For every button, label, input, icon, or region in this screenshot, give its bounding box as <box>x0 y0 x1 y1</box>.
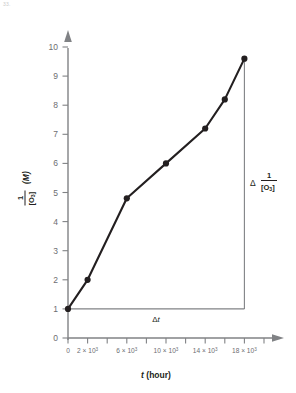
x-tick-label: 6 × 103 <box>116 347 138 354</box>
y-tick-label: 4 <box>53 217 58 227</box>
y-tick-label: 6 <box>53 158 58 168</box>
y-axis-title-denominator: [O3] <box>27 191 37 205</box>
y-axis-ticks <box>63 47 69 338</box>
delta-fraction-denominator: [O3] <box>261 183 275 193</box>
y-axis-arrowhead <box>64 30 72 42</box>
delta-one-over-o3-label: Δ 1 [O3] <box>250 171 277 192</box>
data-point-marker <box>241 56 247 62</box>
y-tick-label: 9 <box>53 71 58 81</box>
data-point-marker <box>124 195 130 201</box>
x-tick-label: 14 × 103 <box>193 347 218 354</box>
data-point-marker <box>222 96 228 102</box>
y-tick-label: 10 <box>49 42 59 52</box>
y-tick-label: 2 <box>53 275 58 285</box>
chart-svg: 0 1 2 3 4 5 6 7 8 9 10 1 [O3] <box>0 0 296 393</box>
x-tick-label: 18 × 103 <box>232 347 257 354</box>
y-axis-tick-labels: 0 1 2 3 4 5 6 7 8 9 10 <box>49 42 59 343</box>
y-tick-label: 1 <box>53 304 58 314</box>
data-point-marker <box>163 160 169 166</box>
delta-t-label: Δt <box>152 315 160 324</box>
data-point-marker <box>85 277 91 283</box>
data-point-marker <box>202 125 208 131</box>
y-tick-label: 5 <box>53 188 58 198</box>
x-tick-label: 2 × 103 <box>77 347 99 354</box>
x-axis-arrowhead <box>272 334 284 342</box>
data-point-marker <box>65 306 71 312</box>
x-axis-title: t (hour) <box>141 370 171 380</box>
y-axis-title-units: (M) <box>21 171 31 184</box>
y-tick-label: 3 <box>53 246 58 256</box>
series-line <box>68 59 244 309</box>
delta-symbol: Δ <box>250 178 256 188</box>
data-series <box>65 56 248 312</box>
y-axis: 0 1 2 3 4 5 6 7 8 9 10 1 [O3] <box>16 30 72 343</box>
y-tick-label: 0 <box>53 333 58 343</box>
x-axis-tick-labels: 0 2 × 103 6 × 103 10 × 103 14 × 103 18 ×… <box>66 347 257 354</box>
y-tick-label: 8 <box>53 100 58 110</box>
y-axis-title-numerator: 1 <box>16 196 25 200</box>
x-tick-label: 0 <box>66 347 70 354</box>
slope-triangle <box>68 58 244 309</box>
y-axis-title: 1 [O3] (M) <box>16 171 37 205</box>
x-axis-ticks <box>68 338 264 344</box>
chart-figure: 0 1 2 3 4 5 6 7 8 9 10 1 [O3] <box>0 0 296 393</box>
x-tick-label: 10 × 103 <box>154 347 179 354</box>
x-axis: 0 2 × 103 6 × 103 10 × 103 14 × 103 18 ×… <box>66 334 284 380</box>
y-tick-label: 7 <box>53 129 58 139</box>
delta-fraction-numerator: 1 <box>267 171 271 180</box>
